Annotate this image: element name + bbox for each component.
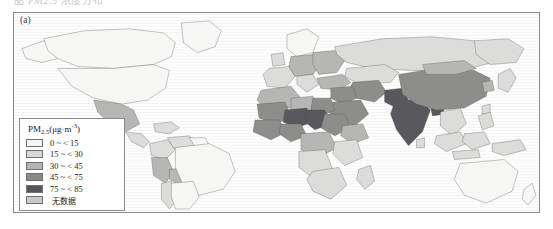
legend-label-4: 75 ~ < 85	[50, 184, 83, 194]
legend-title: PM2.5(μg·m-3)	[28, 124, 120, 134]
legend-label-3: 45 ~ < 75	[50, 172, 83, 182]
legend-item-1[interactable]: 15 ~ < 30	[26, 149, 120, 160]
legend-swatch-1	[26, 150, 43, 158]
legend-swatch-4	[26, 185, 43, 193]
legend-swatch-2	[26, 162, 43, 170]
legend-swatch-3	[26, 173, 43, 181]
legend-item-2[interactable]: 30 ~ < 45	[26, 160, 120, 171]
legend-item-5[interactable]: 无数据	[26, 195, 120, 206]
region-korea	[482, 80, 494, 92]
map-legend: PM2.5(μg·m-3) 0 ~ < 15 15 ~ < 30 30 ~ < …	[19, 118, 125, 211]
legend-item-3[interactable]: 45 ~ < 75	[26, 172, 120, 183]
legend-label-5: 无数据	[52, 195, 76, 206]
map-frame: (a) .land { stroke:#555; stroke-width:0.…	[13, 12, 540, 213]
top-bleed-text: 图 PM2.5 浓度分布	[14, 0, 103, 7]
legend-swatch-0	[26, 139, 43, 147]
region-uk-ireland	[271, 53, 285, 67]
legend-label-1: 15 ~ < 30	[50, 149, 83, 159]
legend-item-0[interactable]: 0 ~ < 15	[26, 137, 120, 148]
panel-label: (a)	[20, 15, 31, 25]
legend-item-4[interactable]: 75 ~ < 85	[26, 183, 120, 194]
legend-label-0: 0 ~ < 15	[50, 138, 79, 148]
legend-swatch-5	[26, 196, 43, 204]
legend-label-2: 30 ~ < 45	[50, 161, 83, 171]
top-text-bleed: 图 PM2.5 浓度分布	[0, 0, 553, 9]
